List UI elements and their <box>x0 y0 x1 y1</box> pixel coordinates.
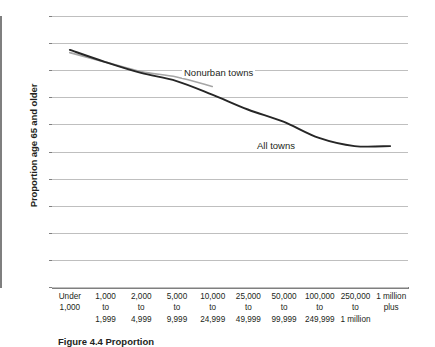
plot-area <box>52 16 408 287</box>
y-axis-tick <box>49 287 52 288</box>
x-axis-category-label: 100,000to249,999 <box>302 291 338 337</box>
series-label-all-towns: All towns <box>255 141 297 151</box>
x-axis-category-label: 5,000to9,999 <box>159 291 195 337</box>
x-axis-category-label: 50,000to99,999 <box>266 291 302 337</box>
x-axis-category-label: 2,000to4,999 <box>123 291 159 337</box>
y-axis-line <box>0 16 2 288</box>
series-label-nonurban-towns: Nonurban towns <box>182 68 255 78</box>
series-lines <box>52 16 408 287</box>
x-axis-category-label: 25,000to49,999 <box>231 291 267 337</box>
x-axis-category-label: Under1,000 <box>52 291 88 337</box>
series-line-all-towns <box>70 50 390 147</box>
x-axis-category-label: 1 millionplus <box>373 291 409 337</box>
x-axis-category-label: 250,000to1 million <box>338 291 374 337</box>
x-axis-category-label: 10,000to24,999 <box>195 291 231 337</box>
x-axis-category-labels: Under1,0001,000to1,9992,000to4,9995,000t… <box>52 291 409 337</box>
y-axis-title: Proportion age 65 and older <box>28 51 39 241</box>
x-axis-category-label: 1,000to1,999 <box>88 291 124 337</box>
figure-caption: Figure 4.4 Proportion <box>58 336 154 347</box>
gridline <box>52 287 408 288</box>
